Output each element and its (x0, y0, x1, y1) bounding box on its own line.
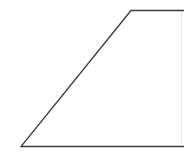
trapezoid-diagram (0, 0, 184, 167)
trapezoid-outline (21, 11, 184, 147)
